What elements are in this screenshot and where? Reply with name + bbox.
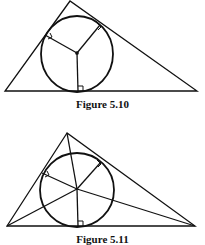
bisector-apex — [67, 133, 77, 189]
right-angle-mark — [78, 86, 83, 91]
radius-bottom — [77, 53, 78, 91]
right-angle-mark — [78, 221, 83, 226]
bisector-left — [7, 189, 77, 226]
triangle — [5, 1, 197, 91]
bisector-right — [77, 189, 195, 226]
figure-caption-1: Figure 5.10 — [0, 98, 205, 110]
radius-right — [77, 25, 100, 53]
radius-bottom — [77, 189, 78, 226]
incenter-point — [76, 52, 78, 54]
figure-caption-2: Figure 5.11 — [0, 233, 205, 245]
figure-5-10 — [5, 1, 197, 92]
radius-right — [77, 162, 101, 189]
figure-5-11 — [7, 133, 195, 227]
triangle — [7, 133, 195, 226]
